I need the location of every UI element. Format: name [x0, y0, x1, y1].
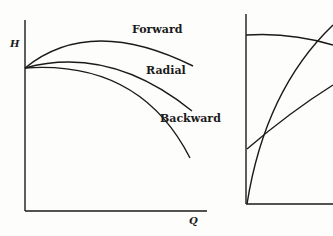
radial-label: Radial: [146, 64, 186, 77]
x-axis-label: Q: [189, 215, 198, 226]
right-flat-curve: [246, 34, 333, 45]
right-linear-curve: [247, 85, 333, 149]
y-axis-label: H: [10, 38, 19, 49]
forward-label: Forward: [132, 23, 182, 36]
backward-label: Backward: [160, 112, 221, 125]
